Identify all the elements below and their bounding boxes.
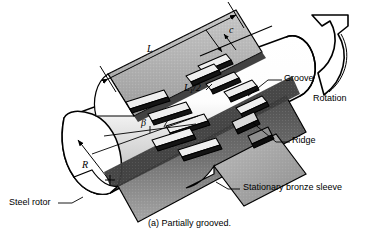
callout-groove: Groove [284, 74, 314, 83]
callout-steel-rotor: Steel rotor [9, 198, 51, 207]
dimension-label-L: L [147, 44, 153, 54]
dimension-label-R: R [82, 160, 88, 170]
figure-partially-grooved-bearing: L c L1/2 β R Groove Ridge Rotation Steel… [0, 0, 379, 241]
bearing-diagram-svg [0, 0, 379, 241]
dimension-label-L1-half: L1/2 [184, 83, 201, 95]
dimension-label-c: c [229, 25, 233, 35]
rotation-arrow-icon [312, 15, 348, 95]
callout-stationary-bronze-sleeve: Stationary bronze sleeve [243, 183, 342, 192]
callout-rotation: Rotation [313, 94, 347, 103]
figure-caption: (a) Partially grooved. [0, 218, 379, 228]
callout-ridge: Ridge [292, 136, 316, 145]
angle-label-beta: β [141, 118, 146, 128]
